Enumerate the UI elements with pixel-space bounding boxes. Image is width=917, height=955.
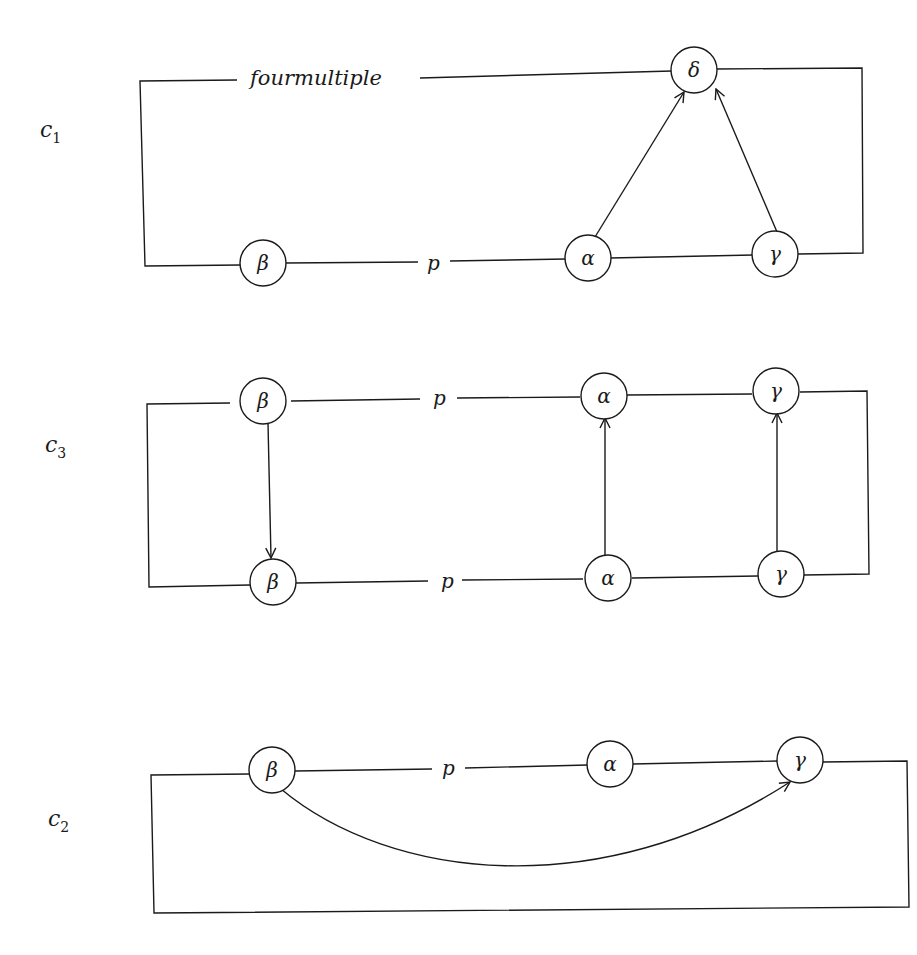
c2-line-mid	[465, 765, 588, 768]
panel-label-c3: c3	[45, 432, 66, 461]
svg-text:γ: γ	[775, 562, 787, 586]
svg-text:γ: γ	[769, 242, 781, 266]
c1-bottom-line-mid	[450, 259, 566, 261]
node-top-beta: β	[240, 378, 286, 424]
curved-arrow-beta-to-gamma	[281, 782, 790, 866]
node-bottom-beta: β	[250, 559, 296, 605]
c3-top-line-left	[291, 399, 420, 401]
c3-bottom-line-right	[632, 576, 758, 578]
arrow-gamma-to-delta	[716, 89, 777, 232]
c3-top-line-mid	[457, 397, 580, 398]
panel-c3: c3 p p β α γ β	[45, 368, 869, 605]
node-gamma: γ	[752, 231, 798, 277]
node-beta: β	[240, 240, 286, 286]
c2-line-right	[632, 761, 778, 764]
node-gamma: γ	[777, 737, 823, 783]
svg-text:β: β	[266, 570, 279, 594]
arrow-beta-down	[268, 423, 271, 558]
svg-text:α: α	[603, 752, 617, 776]
svg-text:α: α	[597, 384, 611, 408]
panel-label-c1: c1	[40, 117, 61, 146]
svg-text:β: β	[265, 758, 278, 782]
c1-left-frame	[140, 80, 241, 266]
top-strand-label-p: p	[433, 386, 446, 410]
node-delta: δ	[671, 47, 717, 93]
c1-right-frame	[716, 68, 863, 254]
svg-text:β: β	[256, 389, 269, 413]
panel-c1: c1 fourmultiple p β α γ δ	[40, 47, 863, 286]
c1-top-line	[420, 71, 672, 78]
node-bottom-gamma: γ	[758, 551, 804, 597]
c3-left-frame	[147, 403, 250, 587]
c3-right-frame	[800, 391, 869, 575]
c2-line-left	[295, 769, 432, 771]
panel-c2: c2 p β α γ	[48, 737, 909, 913]
svg-text:β: β	[256, 251, 269, 275]
edge-label-fourmultiple: fourmultiple	[248, 66, 382, 90]
svg-text:α: α	[601, 566, 615, 590]
diagram-canvas: c1 fourmultiple p β α γ δ c	[0, 0, 917, 955]
svg-text:α: α	[581, 246, 595, 270]
panel-label-c2: c2	[48, 806, 69, 835]
c3-top-line-right	[627, 394, 752, 395]
c3-bottom-line-mid	[462, 579, 583, 580]
svg-text:γ: γ	[794, 748, 806, 772]
node-bottom-alpha: α	[585, 555, 631, 601]
c1-bottom-line-left	[285, 262, 418, 263]
svg-text:γ: γ	[770, 379, 782, 403]
strand-label-p: p	[442, 756, 455, 780]
node-beta: β	[249, 747, 295, 793]
svg-text:δ: δ	[688, 58, 700, 82]
arrow-alpha-to-delta	[595, 92, 684, 237]
node-top-alpha: α	[581, 373, 627, 419]
bottom-strand-label-p: p	[441, 569, 454, 593]
strand-label-p: p	[427, 251, 440, 275]
c3-bottom-line-left	[296, 581, 428, 583]
node-top-gamma: γ	[753, 368, 799, 414]
node-alpha: α	[587, 741, 633, 787]
c1-bottom-line-right	[610, 255, 753, 258]
node-alpha: α	[565, 235, 611, 281]
